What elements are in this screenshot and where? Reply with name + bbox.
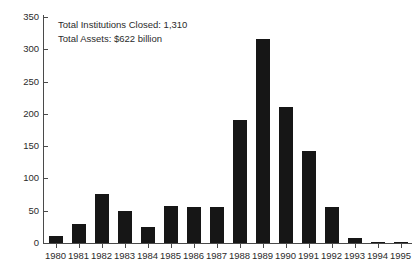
x-axis-tick-mark — [217, 244, 218, 248]
bar-chart: Total Institutions Closed: 1,310 Total A… — [0, 0, 417, 278]
bar — [256, 39, 270, 243]
y-axis-tick-mark — [44, 82, 48, 83]
x-axis-line — [43, 243, 412, 244]
x-axis-tick-label: 1981 — [67, 250, 90, 261]
bar — [72, 224, 86, 243]
x-axis-tick-label: 1991 — [297, 250, 320, 261]
x-axis-tick-label: 1984 — [136, 250, 159, 261]
bar — [325, 207, 339, 243]
bar — [233, 120, 247, 243]
bar — [348, 238, 362, 243]
x-axis-tick-label: 1990 — [274, 250, 297, 261]
x-axis-tick-mark — [332, 244, 333, 248]
bar — [141, 227, 155, 243]
bar — [164, 206, 178, 243]
annotation-line-assets: Total Assets: $622 billion — [58, 32, 187, 46]
bar — [302, 151, 316, 243]
y-axis-tick: 350 — [44, 17, 48, 18]
x-axis-tick-mark — [125, 244, 126, 248]
x-axis-tick-label: 1985 — [159, 250, 182, 261]
x-axis-tick-label: 1992 — [320, 250, 343, 261]
x-axis-tick-label: 1994 — [366, 250, 389, 261]
x-axis-tick-mark — [56, 244, 57, 248]
x-axis-tick-mark — [79, 244, 80, 248]
y-axis-tick: 150 — [44, 146, 48, 147]
x-axis-tick-label: 1982 — [90, 250, 113, 261]
x-axis-tick-mark — [240, 244, 241, 248]
bar — [118, 211, 132, 243]
x-axis-tick-label: 1987 — [205, 250, 228, 261]
y-axis-tick: 300 — [44, 49, 48, 50]
x-axis-tick-mark — [286, 244, 287, 248]
bar — [371, 242, 385, 243]
y-axis-tick: 50 — [44, 211, 48, 212]
x-axis-tick-label: 1989 — [251, 250, 274, 261]
y-axis-tick-label: 250 — [0, 76, 44, 87]
y-axis-tick-label: 300 — [0, 43, 44, 54]
x-axis-tick-label: 1980 — [44, 250, 67, 261]
y-axis-tick-label: 200 — [0, 108, 44, 119]
x-axis-tick-mark — [194, 244, 195, 248]
bar — [95, 194, 109, 243]
bar — [210, 207, 224, 243]
y-axis-tick-mark — [44, 178, 48, 179]
y-axis-tick-label: 100 — [0, 172, 44, 183]
y-axis-tick: 100 — [44, 178, 48, 179]
x-axis-tick-label: 1983 — [113, 250, 136, 261]
x-axis-tick-mark — [378, 244, 379, 248]
x-axis-tick-mark — [148, 244, 149, 248]
x-axis-tick-label: 1993 — [343, 250, 366, 261]
y-axis-tick: 250 — [44, 82, 48, 83]
x-axis-tick-mark — [309, 244, 310, 248]
y-axis-tick-mark — [44, 17, 48, 18]
y-axis-tick-mark — [44, 211, 48, 212]
x-axis-tick-label: 1988 — [228, 250, 251, 261]
y-axis-tick-label: 150 — [0, 140, 44, 151]
x-axis-tick-mark — [401, 244, 402, 248]
y-axis-tick-mark — [44, 114, 48, 115]
chart-annotation: Total Institutions Closed: 1,310 Total A… — [58, 18, 187, 46]
bar — [49, 236, 63, 243]
bar — [279, 107, 293, 243]
x-axis-tick-label: 1995 — [389, 250, 412, 261]
y-axis-tick-label: 50 — [0, 205, 44, 216]
y-axis-tick-mark — [44, 243, 48, 244]
y-axis-tick-label: 0 — [0, 237, 44, 248]
y-axis-tick-mark — [44, 146, 48, 147]
x-axis-tick-mark — [355, 244, 356, 248]
annotation-line-institutions: Total Institutions Closed: 1,310 — [58, 18, 187, 32]
x-axis-tick-label: 1986 — [182, 250, 205, 261]
bar — [394, 242, 408, 243]
y-axis-tick: 0 — [44, 243, 48, 244]
y-axis-tick: 200 — [44, 114, 48, 115]
x-axis-tick-mark — [102, 244, 103, 248]
bar — [187, 207, 201, 243]
y-axis-tick-mark — [44, 49, 48, 50]
x-axis-tick-mark — [263, 244, 264, 248]
y-axis-tick-label: 350 — [0, 11, 44, 22]
x-axis-tick-mark — [171, 244, 172, 248]
